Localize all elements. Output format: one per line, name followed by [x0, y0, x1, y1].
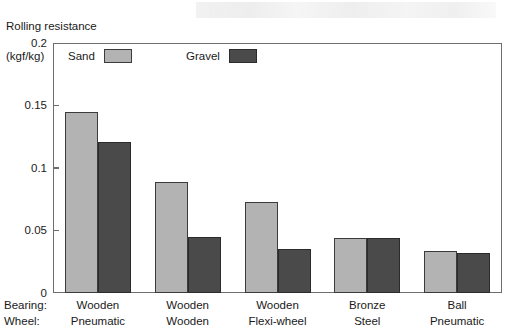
bar-gravel-wooden-wooden: [188, 237, 221, 293]
category-wheel-value: Pneumatic: [397, 313, 514, 329]
y-axis-tick-label: 0.05: [3, 225, 47, 236]
y-axis-tick-label: 0.1: [3, 163, 47, 174]
y-axis-tick-label: 0.15: [3, 100, 47, 111]
category-label-group: BallPneumatic: [397, 297, 514, 329]
y-axis-title-line-2: (kgf/kg): [6, 50, 44, 62]
bar-sand-bronze-steel: [334, 238, 367, 293]
bar-sand-wooden-wooden: [155, 182, 188, 293]
y-axis-title-line-1: Rolling resistance: [6, 20, 97, 32]
bar-gravel-bronze-steel: [367, 238, 400, 293]
bar-sand-ball-pneumatic: [424, 251, 457, 294]
bar-gravel-wooden-pneumatic: [98, 142, 131, 293]
bar-gravel-ball-pneumatic: [457, 253, 490, 293]
bar-gravel-wooden-flexi-wheel: [278, 249, 311, 293]
bar-sand-wooden-flexi-wheel: [245, 202, 278, 293]
scan-bleedthrough-artifact-top: [196, 2, 496, 18]
bar-sand-wooden-pneumatic: [65, 112, 98, 293]
category-bearing-value: Ball: [397, 297, 514, 313]
